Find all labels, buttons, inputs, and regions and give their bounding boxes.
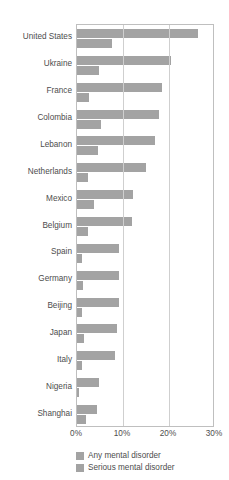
bar: [77, 361, 82, 370]
bar: [77, 39, 112, 48]
bar: [77, 334, 84, 343]
bar: [77, 388, 79, 397]
bar-group: [77, 159, 213, 186]
category-label: Shanghai: [0, 410, 72, 418]
bar: [77, 66, 99, 75]
bar-group: [77, 321, 213, 348]
category-label: Belgium: [0, 222, 72, 230]
legend-item: Serious mental disorder: [76, 463, 174, 473]
bar-group: [77, 213, 213, 240]
legend-item: Any mental disorder: [76, 451, 174, 461]
bar: [77, 56, 171, 65]
bar: [77, 405, 97, 414]
category-label: Lebanon: [0, 141, 72, 149]
category-label: Japan: [0, 329, 72, 337]
legend-label-any-mental-disorder: Any mental disorder: [88, 452, 161, 460]
bar: [77, 173, 88, 182]
legend-swatch-serious-mental-disorder: [76, 464, 84, 472]
bar: [77, 271, 119, 280]
bar: [77, 308, 82, 317]
bar: [77, 190, 133, 199]
category-label: France: [0, 87, 72, 95]
bar: [77, 146, 98, 155]
bars-layer: [77, 25, 213, 426]
category-label: Germany: [0, 275, 72, 283]
bar-group: [77, 240, 213, 267]
category-label: Italy: [0, 356, 72, 364]
bar: [77, 227, 88, 236]
bar: [77, 110, 159, 119]
category-label: Nigeria: [0, 383, 72, 391]
bar: [77, 200, 94, 209]
bar-group: [77, 52, 213, 79]
bar-group: [77, 401, 213, 428]
legend-label-serious-mental-disorder: Serious mental disorder: [88, 464, 174, 472]
bar: [77, 29, 198, 38]
category-label: Ukraine: [0, 60, 72, 68]
category-label: Mexico: [0, 195, 72, 203]
gridline: [169, 25, 170, 426]
x-tick-label: 10%: [114, 430, 130, 438]
category-label: Beijing: [0, 302, 72, 310]
category-label: Spain: [0, 248, 72, 256]
category-label: Colombia: [0, 114, 72, 122]
bar: [77, 93, 89, 102]
x-axis-tick-labels: 0%10%20%30%: [0, 430, 229, 444]
bar: [77, 415, 86, 424]
bar-group: [77, 374, 213, 401]
chart-title: [80, 0, 229, 6]
bar: [77, 254, 82, 263]
bar: [77, 120, 101, 129]
bar: [77, 83, 162, 92]
bar-group: [77, 186, 213, 213]
category-label: Netherlands: [0, 168, 72, 176]
bar-group: [77, 132, 213, 159]
chart-legend: Any mental disorder Serious mental disor…: [76, 451, 174, 473]
bar-group: [77, 267, 213, 294]
bar-group: [77, 106, 213, 133]
bar-chart: United StatesUkraineFranceColombiaLebano…: [0, 0, 229, 480]
bar: [77, 378, 99, 387]
bar: [77, 298, 119, 307]
bar: [77, 136, 155, 145]
bar: [77, 244, 119, 253]
category-axis-labels: United StatesUkraineFranceColombiaLebano…: [0, 24, 72, 427]
bar-group: [77, 294, 213, 321]
bar: [77, 351, 115, 360]
gridline: [123, 25, 124, 426]
x-tick-label: 20%: [160, 430, 176, 438]
bar: [77, 163, 146, 172]
bar-group: [77, 79, 213, 106]
plot-area: [76, 24, 214, 427]
legend-swatch-any-mental-disorder: [76, 452, 84, 460]
bar-group: [77, 25, 213, 52]
x-tick-label: 30%: [206, 430, 222, 438]
x-tick-label: 0%: [70, 430, 82, 438]
bar: [77, 281, 83, 290]
category-label: United States: [0, 33, 72, 41]
bar: [77, 324, 117, 333]
bar-group: [77, 347, 213, 374]
